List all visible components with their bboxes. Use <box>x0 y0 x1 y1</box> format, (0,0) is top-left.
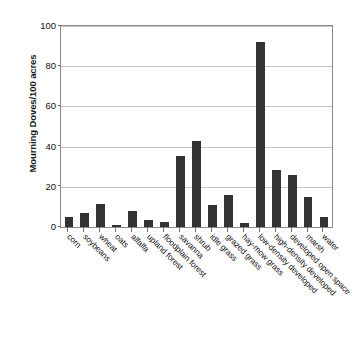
bar <box>272 170 281 227</box>
bar <box>192 141 201 227</box>
x-tick-mark <box>147 227 148 232</box>
x-tick-slot <box>140 227 156 232</box>
x-tick-slot <box>283 227 299 232</box>
x-tick-mark <box>67 227 68 232</box>
bar-slot <box>141 26 157 227</box>
x-tick-mark <box>291 227 292 232</box>
x-label-slot: low-density developed <box>251 233 267 341</box>
x-tick-mark <box>163 227 164 232</box>
x-tick-slot <box>203 227 219 232</box>
bar <box>288 175 297 227</box>
x-label-slot: marsh <box>299 233 315 341</box>
bar-slot <box>173 26 189 227</box>
x-tick-slot <box>76 227 92 232</box>
x-tick-slot <box>315 227 331 232</box>
x-label-slot: grazed grass <box>219 233 235 341</box>
x-label-slot: floodplain forest <box>156 233 172 341</box>
bar-slot <box>189 26 205 227</box>
bar-slot <box>109 26 125 227</box>
x-tick-slot <box>299 227 315 232</box>
x-tick-mark <box>115 227 116 232</box>
bar <box>320 217 329 227</box>
x-tick-slot <box>92 227 108 232</box>
bar-slot <box>316 26 332 227</box>
bar-series <box>61 26 332 227</box>
bar-slot <box>236 26 252 227</box>
y-tick-label: 80 <box>22 60 56 71</box>
x-tick-mark <box>131 227 132 232</box>
x-label-slot: developed open space <box>283 233 299 341</box>
x-tick-slot <box>124 227 140 232</box>
x-tick-slot <box>156 227 172 232</box>
bar <box>65 217 74 227</box>
x-tick-slot <box>235 227 251 232</box>
x-label-slot: soybeans <box>76 233 92 341</box>
x-label-slot: shrub <box>188 233 204 341</box>
bar <box>256 42 265 227</box>
x-tick-slot <box>267 227 283 232</box>
bar <box>208 205 217 227</box>
y-tick-label: 20 <box>22 180 56 191</box>
x-tick-slot <box>219 227 235 232</box>
y-axis-tick-labels: 020406080100 <box>22 0 56 343</box>
x-tick-mark <box>275 227 276 232</box>
x-label-slot: savanna <box>172 233 188 341</box>
x-tick-mark <box>83 227 84 232</box>
bar-slot <box>252 26 268 227</box>
bar-slot <box>93 26 109 227</box>
bar-slot <box>220 26 236 227</box>
y-tick-label: 40 <box>22 140 56 151</box>
x-tick-label: water <box>320 232 341 253</box>
bar-slot <box>204 26 220 227</box>
bar-slot <box>61 26 77 227</box>
y-tick-label: 100 <box>22 20 56 31</box>
bar-slot <box>268 26 284 227</box>
x-tick-mark <box>307 227 308 232</box>
x-label-slot: wheat <box>92 233 108 341</box>
y-tick-label: 0 <box>22 221 56 232</box>
x-label-slot: water <box>315 233 331 341</box>
x-label-slot: hay-mow grass <box>235 233 251 341</box>
bar <box>224 195 233 227</box>
x-tick-mark <box>243 227 244 232</box>
x-tick-mark <box>322 227 323 232</box>
x-tick-slot <box>251 227 267 232</box>
x-label-slot: upland forest <box>140 233 156 341</box>
x-tick-mark <box>227 227 228 232</box>
x-label-slot: oats <box>108 233 124 341</box>
x-tick-slot <box>108 227 124 232</box>
bar <box>144 220 153 227</box>
bar <box>176 156 185 227</box>
x-label-slot: high-density developed <box>267 233 283 341</box>
bar <box>128 211 137 227</box>
x-tick-slot <box>172 227 188 232</box>
bar-slot <box>300 26 316 227</box>
x-tick-mark <box>259 227 260 232</box>
y-tick-label: 60 <box>22 100 56 111</box>
x-tick-slot <box>60 227 76 232</box>
plot-area <box>60 25 333 228</box>
x-label-slot: corn <box>60 233 76 341</box>
x-label-slot: alfalfa <box>124 233 140 341</box>
x-tick-mark <box>99 227 100 232</box>
bar-slot <box>157 26 173 227</box>
x-tick-mark <box>195 227 196 232</box>
bar-slot <box>284 26 300 227</box>
bar <box>96 204 105 227</box>
bar <box>80 213 89 227</box>
bar <box>304 197 313 227</box>
bar-slot <box>77 26 93 227</box>
x-label-slot: idle grass <box>203 233 219 341</box>
x-tick-mark <box>211 227 212 232</box>
x-axis-ticks <box>60 227 331 232</box>
x-tick-mark <box>179 227 180 232</box>
x-axis-tick-labels: cornsoybeanswheatoatsalfalfaupland fores… <box>60 233 331 341</box>
x-tick-slot <box>188 227 204 232</box>
bar-slot <box>125 26 141 227</box>
